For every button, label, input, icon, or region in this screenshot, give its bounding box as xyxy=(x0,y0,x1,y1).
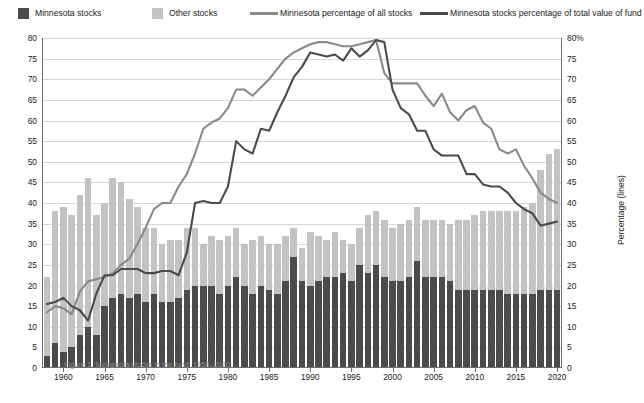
line-minnesota-stocks-percentage-of-total-value-of-fund xyxy=(47,40,557,321)
x-axis-tick-label: 1980 xyxy=(219,373,238,382)
y-axis-left-tick-label: 30 xyxy=(28,240,37,248)
y-axis-right-tick-label: 40 xyxy=(567,199,576,207)
legend-line-minnesota-percentage-all-stocks xyxy=(250,12,278,15)
y-axis-right-tick-label: 35 xyxy=(567,220,576,228)
x-axis-tick-label: 2005 xyxy=(424,373,443,382)
legend-item-minnesota-stocks[interactable]: Minnesota stocks xyxy=(18,0,101,26)
y-axis-right-tick-label: 55 xyxy=(567,137,576,145)
x-axis-tick-label: 1990 xyxy=(301,373,320,382)
legend-item-minnesota-percentage-all-stocks[interactable]: Minnesota percentage of all stocks xyxy=(250,0,412,26)
legend-item-other-stocks[interactable]: Other stocks xyxy=(152,0,217,26)
figure-caption: Figure 1. Minnesota stocks in the fund, … xyxy=(64,360,644,369)
y-axis-left-tick-label: 0 xyxy=(32,364,37,372)
x-axis-tick-label: 2020 xyxy=(548,373,567,382)
legend-swatch-other-stocks xyxy=(152,8,163,19)
y-axis-right-tick-label: 80% xyxy=(567,34,584,42)
y-axis-right-tick-label: 5 xyxy=(567,343,572,351)
x-axis-tick-label: 1970 xyxy=(136,373,155,382)
chart-legend: Minnesota stocksOther stocksMinnesota pe… xyxy=(0,0,624,26)
legend-line-minnesota-stocks-percentage-total-value xyxy=(420,12,448,15)
x-axis-tick-label: 1995 xyxy=(342,373,361,382)
y-axis-left-tick-label: 35 xyxy=(28,220,37,228)
y-axis-left-tick-label: 50 xyxy=(28,158,37,166)
line-series-layer xyxy=(42,38,562,368)
y-axis-left-tick-label: 25 xyxy=(28,261,37,269)
y-axis-right-tick-label: 15 xyxy=(567,302,576,310)
legend-label-other-stocks: Other stocks xyxy=(169,9,217,18)
y-axis-right-tick-label: 25 xyxy=(567,261,576,269)
x-axis-tick-label: 1985 xyxy=(260,373,279,382)
x-axis-tick-label: 1965 xyxy=(95,373,114,382)
y-axis-left-tick-label: 10 xyxy=(28,323,37,331)
y-axis-right-tick-label: 10 xyxy=(567,323,576,331)
y-axis-left-tick-label: 15 xyxy=(28,302,37,310)
x-axis-tick-label: 1975 xyxy=(177,373,196,382)
y-axis-left-tick-label: 80 xyxy=(28,34,37,42)
y-axis-left-tick-label: 45 xyxy=(28,178,37,186)
y-axis-right-tick-label: 30 xyxy=(567,240,576,248)
y-axis-left-tick-label: 65 xyxy=(28,96,37,104)
legend-item-minnesota-stocks-percentage-total-value[interactable]: Minnesota stocks percentage of total val… xyxy=(420,0,642,26)
y-axis-left-tick-label: 75 xyxy=(28,55,37,63)
x-axis-tick-label: 1960 xyxy=(54,373,73,382)
legend-label-minnesota-stocks-percentage-total-value: Minnesota stocks percentage of total val… xyxy=(450,9,642,18)
y-axis-right-tick-label: 50 xyxy=(567,158,576,166)
y-axis-left-tick-label: 20 xyxy=(28,282,37,290)
y-axis-right-tick-label: 65 xyxy=(567,96,576,104)
x-axis-tick-label: 2000 xyxy=(383,373,402,382)
x-axis-tick-label: 2010 xyxy=(465,373,484,382)
y-axis-right-tick-label: 60 xyxy=(567,117,576,125)
x-axis-tick-label: 2015 xyxy=(507,373,526,382)
axis-line-left xyxy=(42,38,43,368)
y-axis-right-tick-label: 20 xyxy=(567,282,576,290)
legend-label-minnesota-stocks: Minnesota stocks xyxy=(35,9,101,18)
y-axis-left-tick-label: 5 xyxy=(32,343,37,351)
y-axis-right-title: Percentage (lines) xyxy=(616,175,626,245)
plot-wrapper: 0055101015152020252530303535404045455050… xyxy=(42,38,562,368)
legend-label-minnesota-percentage-all-stocks: Minnesota percentage of all stocks xyxy=(280,9,412,18)
legend-swatch-minnesota-stocks xyxy=(18,8,29,19)
y-axis-left-tick-label: 60 xyxy=(28,117,37,125)
y-axis-left-tick-label: 40 xyxy=(28,199,37,207)
y-axis-left-tick-label: 70 xyxy=(28,75,37,83)
y-axis-left-tick-label: 55 xyxy=(28,137,37,145)
line-minnesota-percentage-of-all-stocks xyxy=(47,40,557,314)
plot-area: 0055101015152020252530303535404045455050… xyxy=(42,38,562,368)
axis-line-right xyxy=(561,38,562,368)
y-axis-right-tick-label: 75 xyxy=(567,55,576,63)
y-axis-right-tick-label: 70 xyxy=(567,75,576,83)
y-axis-right-tick-label: 45 xyxy=(567,178,576,186)
